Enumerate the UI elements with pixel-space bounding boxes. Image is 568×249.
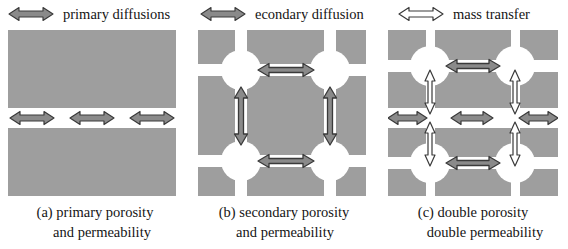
legend-label: econdary diffusion — [255, 7, 364, 22]
caption-panel-c: (c) double porosity double permeability — [378, 203, 568, 242]
caption-line: (c) double porosity — [378, 203, 568, 223]
legend-item-mass-transfer: mass transfer — [398, 0, 530, 28]
caption-line: (a) primary porosity — [0, 203, 190, 223]
caption-line: and permeability — [186, 223, 382, 243]
caption-line: and permeability — [0, 223, 190, 243]
fracture-node — [221, 50, 261, 90]
filled-double-arrow-icon — [8, 6, 54, 22]
legend-item-secondary-diffusion: econdary diffusion — [200, 0, 364, 28]
legend-item-primary-diffusions: primary diffusions — [8, 0, 170, 28]
panel-primary-porosity — [8, 30, 176, 196]
legend-label: primary diffusions — [63, 7, 170, 22]
panel-c-diagram — [388, 30, 558, 196]
filled-double-arrow-icon — [200, 6, 246, 22]
fracture-node — [310, 141, 350, 181]
panel-secondary-porosity — [198, 30, 366, 196]
caption-line: double permeability — [378, 223, 568, 243]
fracture-node — [310, 50, 350, 90]
legend-label: mass transfer — [453, 7, 530, 22]
panel-a-diagram — [8, 30, 176, 196]
caption-line: (b) secondary porosity — [186, 203, 382, 223]
caption-panel-b: (b) secondary porosity and permeability — [186, 203, 382, 242]
caption-panel-a: (a) primary porosity and permeability — [0, 203, 190, 242]
hollow-double-arrow-icon — [398, 6, 444, 22]
panel-double-porosity — [388, 30, 558, 196]
legend: primary diffusions econdary diffusion ma… — [0, 0, 568, 28]
fracture-node — [221, 141, 261, 181]
porosity-permeability-figure: primary diffusions econdary diffusion ma… — [0, 0, 568, 249]
panel-b-diagram — [198, 30, 366, 196]
